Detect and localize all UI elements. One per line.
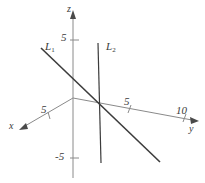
y-tick-label-10: 10 (176, 105, 187, 116)
figure-3d-axes-with-lines: z y x 5 -5 5 10 5 L1 L2 (0, 0, 205, 183)
z-axis-label: z (67, 4, 71, 14)
z-tick-label-5: 5 (61, 32, 67, 43)
y-axis-label: y (189, 124, 193, 134)
line-label-L2-sub: 2 (112, 46, 116, 54)
x-tick-5 (48, 112, 50, 119)
x-axis-arrowhead (19, 123, 28, 130)
axes-and-lines-drawing (0, 0, 205, 183)
line-label-L1-sub: 1 (51, 46, 55, 54)
z-axis (70, 10, 79, 178)
line-label-L2: L2 (106, 41, 116, 52)
x-axis-label: x (9, 121, 13, 131)
z-tick-label-neg5: -5 (55, 151, 64, 162)
y-tick-label-5: 5 (124, 96, 130, 107)
line-label-L1: L1 (45, 41, 55, 52)
x-tick-label-5: 5 (41, 104, 47, 115)
